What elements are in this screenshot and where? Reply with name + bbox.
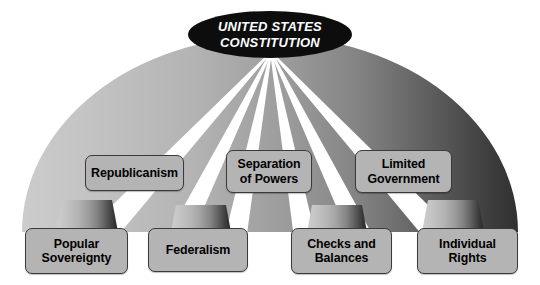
constitution-principles-diagram: UNITED STATES CONSTITUTION Republicanism… <box>0 0 540 285</box>
node-label: Republicanism <box>86 166 183 180</box>
node-label: Federalism <box>161 243 235 257</box>
node-limited-government[interactable]: Limited Government <box>355 150 452 193</box>
node-label: Limited Government <box>363 157 445 186</box>
node-label: Individual Rights <box>434 237 501 266</box>
crown-label: UNITED STATES CONSTITUTION <box>218 19 322 50</box>
node-label: Separation of Powers <box>232 157 305 186</box>
node-label: Popular Sovereignty <box>37 237 117 266</box>
node-label: Checks and Balances <box>302 237 381 266</box>
node-federalism[interactable]: Federalism <box>148 228 248 272</box>
node-individual-rights[interactable]: Individual Rights <box>417 228 518 274</box>
node-republicanism[interactable]: Republicanism <box>85 155 184 191</box>
node-checks-and-balances[interactable]: Checks and Balances <box>291 228 392 274</box>
constitution-crown: UNITED STATES CONSTITUTION <box>188 11 352 58</box>
node-separation-of-powers[interactable]: Separation of Powers <box>226 150 312 193</box>
node-popular-sovereignty[interactable]: Popular Sovereignty <box>25 228 128 274</box>
